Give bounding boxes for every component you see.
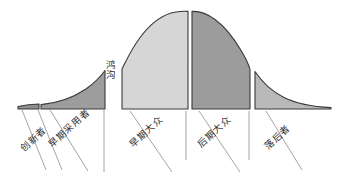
chasm-char-2: 沟 xyxy=(106,70,116,80)
segment-early-adopters[interactable] xyxy=(41,71,105,110)
adoption-lifecycle-diagram: 创新者 早期采用者 早期大众 后期大众 落后者 鸿 沟 xyxy=(0,0,348,176)
segment-innovators[interactable] xyxy=(18,104,39,109)
segment-laggards[interactable] xyxy=(255,72,331,110)
segment-early-majority[interactable] xyxy=(122,11,188,109)
segment-label-late-majority: 后期大众 xyxy=(195,113,233,149)
adoption-curve-svg: 创新者 早期采用者 早期大众 后期大众 落后者 xyxy=(0,0,348,176)
segment-label-early-adopters: 早期采用者 xyxy=(46,107,92,150)
segment-label-early-majority: 早期大众 xyxy=(127,113,165,149)
chasm-label: 鸿 沟 xyxy=(104,60,117,94)
segment-label-innovators: 创新者 xyxy=(18,124,49,153)
segment-late-majority[interactable] xyxy=(192,11,250,109)
